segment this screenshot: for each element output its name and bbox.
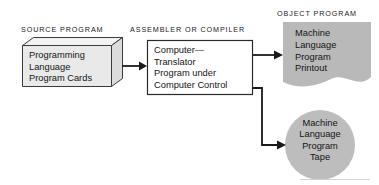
printout-line-2: Language	[295, 40, 336, 52]
printout-line-1: Machine	[295, 28, 336, 40]
tape-line-1: Machine	[286, 118, 354, 129]
tape-line-3: Program	[286, 141, 354, 152]
source-cards-line-1: Programming	[29, 50, 92, 62]
tape-label: Machine Language Program Tape	[286, 118, 354, 164]
tape-line-2: Language	[286, 129, 354, 140]
connector-cards-to-translator	[122, 62, 147, 71]
translator-label: Computer— Translator Program under Compu…	[154, 45, 227, 91]
caption-source-program: SOURCE PROGRAM	[21, 25, 104, 34]
printout-label: Machine Language Program Printout	[295, 28, 336, 75]
caption-object-program: OBJECT PROGRAM	[277, 9, 357, 18]
cube-top-face	[23, 38, 123, 46]
printout-line-3: Program	[295, 52, 336, 64]
connector-translator-to-tape	[253, 88, 286, 150]
caption-assembler-or-compiler: ASSEMBLER OR COMPILER	[130, 25, 245, 34]
diagram-canvas: SOURCE PROGRAM ASSEMBLER OR COMPILER OBJ…	[0, 0, 379, 185]
source-cards-line-2: Language	[29, 62, 92, 74]
cube-right-face	[112, 38, 123, 87]
translator-line-3: Program under	[154, 68, 227, 80]
tape-line-4: Tape	[286, 152, 354, 163]
printout-line-4: Printout	[295, 63, 336, 75]
source-cards-label: Programming Language Program Cards	[29, 50, 92, 85]
translator-line-2: Translator	[154, 57, 227, 69]
source-cards-line-3: Program Cards	[29, 73, 92, 85]
connector-translator-to-printout	[253, 51, 283, 60]
translator-line-1: Computer—	[154, 45, 227, 57]
translator-line-4: Computer Control	[154, 80, 227, 92]
